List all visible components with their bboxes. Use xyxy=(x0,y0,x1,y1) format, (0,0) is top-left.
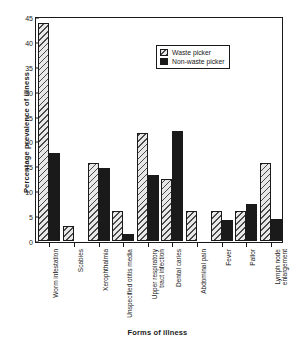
x-axis-tick-mark xyxy=(49,243,50,247)
y-axis-tick-label: 20 xyxy=(7,139,33,146)
bar-waste-picker xyxy=(186,211,197,241)
x-axis-category-label: Abdominal pain xyxy=(200,249,207,347)
x-axis-category-label: Upper respiratory tract infection xyxy=(151,249,166,347)
y-axis-tick-label: 0 xyxy=(7,239,33,246)
bar-chart-figure: Percentage prevalence of illness Forms o… xyxy=(0,0,296,347)
y-axis-tick-label: 15 xyxy=(7,164,33,171)
bar-group xyxy=(112,19,134,241)
bar-non-waste-picker xyxy=(49,153,60,241)
bar-group xyxy=(63,19,85,241)
bar-group xyxy=(260,19,282,241)
x-axis-tick-mark xyxy=(123,243,124,247)
bar-group xyxy=(38,19,60,241)
legend-label-waste-picker: Waste picker xyxy=(172,49,211,56)
legend-swatch-waste-picker xyxy=(160,49,168,56)
bar-waste-picker xyxy=(260,163,271,241)
y-axis-tick-label: 45 xyxy=(7,15,33,22)
x-axis-category-label: Scabies xyxy=(77,249,84,347)
x-axis-category-label: Pallor xyxy=(249,249,256,347)
x-axis-tick-mark xyxy=(172,243,173,247)
bar-waste-picker xyxy=(63,226,74,241)
bar-non-waste-picker xyxy=(271,219,282,241)
x-axis-tick-mark xyxy=(197,243,198,247)
x-axis-category-label: Worm infestation xyxy=(52,249,59,347)
x-axis-tick-mark xyxy=(148,243,149,247)
y-axis-tick-label: 10 xyxy=(7,189,33,196)
bar-waste-picker xyxy=(211,211,222,241)
bar-non-waste-picker xyxy=(148,175,159,241)
x-axis-category-label: Fever xyxy=(225,249,232,347)
y-axis-tick-label: 25 xyxy=(7,114,33,121)
bar-group xyxy=(235,19,257,241)
y-axis-tick-label: 5 xyxy=(7,214,33,221)
y-axis-tick-label: 30 xyxy=(7,89,33,96)
bar-waste-picker xyxy=(161,179,172,241)
bar-waste-picker xyxy=(137,133,148,242)
x-axis-category-label: Lymph node enlargement xyxy=(274,249,289,347)
bar-waste-picker xyxy=(235,211,246,241)
y-axis-tick-mark xyxy=(36,242,39,243)
bar-non-waste-picker xyxy=(222,220,233,241)
bar-non-waste-picker xyxy=(246,204,257,241)
legend-item-waste-picker: Waste picker xyxy=(160,48,225,57)
bar-group xyxy=(88,19,110,241)
bar-waste-picker xyxy=(88,163,99,241)
legend-swatch-non-waste-picker xyxy=(160,58,168,65)
x-axis-tick-mark xyxy=(222,243,223,247)
legend-label-non-waste-picker: Non-waste picker xyxy=(172,58,225,65)
x-axis-tick-mark xyxy=(271,243,272,247)
x-axis-category-label: Xerophthalmia xyxy=(102,249,109,347)
x-axis-category-label: Unspecified otitis media xyxy=(126,249,133,347)
bar-non-waste-picker xyxy=(99,168,110,241)
y-axis-tick-label: 40 xyxy=(7,39,33,46)
x-axis-tick-mark xyxy=(74,243,75,247)
x-axis-tick-mark xyxy=(99,243,100,247)
bar-waste-picker xyxy=(38,23,49,241)
x-axis-tick-mark xyxy=(246,243,247,247)
bar-non-waste-picker xyxy=(172,131,183,241)
legend-item-non-waste-picker: Non-waste picker xyxy=(160,57,225,66)
x-axis-category-label: Dental caries xyxy=(175,249,182,347)
bar-non-waste-picker xyxy=(123,234,134,241)
chart-legend: Waste picker Non-waste picker xyxy=(156,45,230,69)
bar-waste-picker xyxy=(112,211,123,241)
y-axis-tick-label: 35 xyxy=(7,64,33,71)
